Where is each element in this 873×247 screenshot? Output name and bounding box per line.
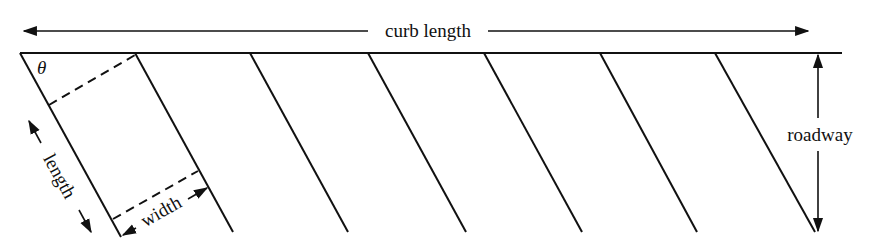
roadway-dimension: roadway: [787, 55, 853, 231]
stall-line-4: [368, 53, 466, 232]
width-label: width: [137, 191, 185, 231]
stall-line-3: [250, 53, 348, 232]
angle-theta-label: θ: [37, 57, 46, 78]
parking-diagram: curb length θ length width roadway: [0, 0, 873, 247]
length-dimension: length: [29, 121, 91, 232]
roadway-label: roadway: [787, 124, 853, 145]
stall-lines: [20, 53, 815, 237]
stall-line-1: [20, 53, 121, 237]
width-dimension: width: [123, 188, 207, 235]
stall-line-6: [600, 53, 697, 232]
length-label: length: [39, 150, 80, 202]
upper-dashed-line: [49, 55, 135, 105]
curb-length-label: curb length: [385, 20, 472, 41]
stall-line-5: [484, 53, 582, 232]
curb-length-dimension: curb length: [24, 20, 808, 41]
